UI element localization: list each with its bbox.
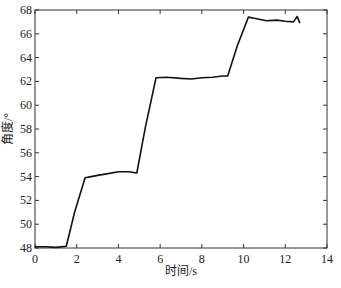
data-line (35, 17, 300, 248)
x-axis-label: 时间/s (165, 264, 197, 278)
y-tick-label: 68 (20, 3, 32, 17)
y-tick-label: 64 (20, 51, 32, 65)
x-tick-label: 8 (199, 252, 205, 266)
y-tick-label: 58 (20, 122, 32, 136)
x-tick-label: 6 (157, 252, 163, 266)
y-tick-label: 62 (20, 74, 32, 88)
x-tick-label: 10 (238, 252, 250, 266)
line-chart: 02468101214 4850525456586062646668 时间/s … (0, 0, 341, 288)
y-tick-label: 50 (20, 217, 32, 231)
y-tick-label: 56 (20, 146, 32, 160)
x-tick-label: 0 (32, 252, 38, 266)
y-tick-label: 48 (20, 241, 32, 255)
plot-frame (35, 10, 327, 248)
y-tick-label: 54 (20, 170, 32, 184)
y-tick-label: 52 (20, 193, 32, 207)
x-tick-label: 2 (74, 252, 80, 266)
y-axis-label: 角度/° (0, 113, 15, 145)
x-axis: 02468101214 (32, 10, 333, 266)
y-axis: 4850525456586062646668 (20, 3, 327, 255)
x-tick-label: 14 (321, 252, 333, 266)
x-tick-label: 4 (115, 252, 121, 266)
x-tick-label: 12 (279, 252, 291, 266)
y-tick-label: 66 (20, 27, 32, 41)
y-tick-label: 60 (20, 98, 32, 112)
